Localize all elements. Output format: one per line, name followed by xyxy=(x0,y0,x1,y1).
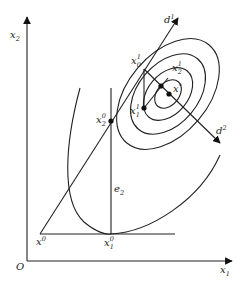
label-x0: x0 xyxy=(36,235,46,247)
point-x11 xyxy=(141,105,146,110)
point-xstar xyxy=(166,91,171,96)
y-axis-label: x2 xyxy=(10,29,20,43)
label-e2: e2 xyxy=(114,183,124,197)
label-x21: x12 xyxy=(172,60,182,76)
label-x20: x02 xyxy=(96,112,106,128)
x-axis-label: x1 xyxy=(220,264,230,278)
labels: x0 x01 x02 x10 x11 x12 x* d1 d2 e2 xyxy=(36,13,227,251)
points xyxy=(108,83,171,123)
label-x10: x01 xyxy=(104,235,114,251)
diagram-canvas: x2 x1 O x0 x01 x02 x10 x11 x12 x* d1 d2 xyxy=(0,0,242,283)
point-x20 xyxy=(108,118,113,123)
label-d1: d1 xyxy=(164,13,175,25)
origin-label: O xyxy=(16,261,24,272)
line-d1 xyxy=(40,18,178,234)
point-x21 xyxy=(158,83,163,88)
label-x01: x10 xyxy=(131,53,141,69)
label-d2: d2 xyxy=(216,124,227,136)
